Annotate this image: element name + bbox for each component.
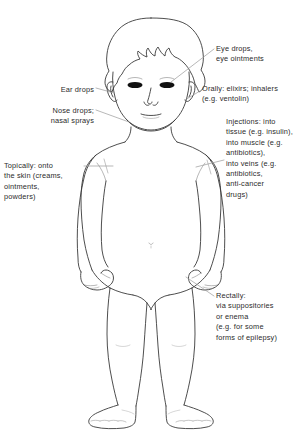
left-eyebrow (128, 78, 142, 80)
mouth (141, 114, 161, 116)
label-ear-drops: Ear drops (30, 85, 94, 95)
child-figure-illustration (0, 0, 302, 434)
left-foot (89, 405, 136, 429)
left-leg-inner (136, 303, 147, 406)
leader-injections (196, 160, 224, 167)
right-toes (176, 420, 211, 422)
right-eye (160, 82, 175, 88)
label-injections: Injections: into tissue (e.g. insulin), … (226, 117, 302, 200)
face-outline (113, 72, 190, 130)
mouth-lower (143, 117, 159, 119)
leader-rectally (186, 277, 214, 296)
right-fingers-1 (205, 285, 218, 286)
right-fingers-2 (203, 287, 214, 288)
label-rectally: Rectally: via suppositories or enema (e.… (216, 291, 302, 343)
right-eyebrow (160, 78, 174, 80)
neck-right (171, 127, 177, 142)
leader-ear-drops (96, 88, 114, 93)
label-topically: Topically: onto the skin (creams, ointme… (4, 161, 82, 203)
right-leg-outer (184, 288, 195, 405)
right-ear-inner (189, 86, 191, 97)
right-leg-inner (155, 303, 166, 406)
right-foot (166, 405, 213, 429)
nose-right-nostril (153, 102, 158, 105)
groin-left (110, 288, 133, 295)
groin-right (169, 288, 192, 295)
right-thumb (192, 273, 201, 278)
left-fingers-2 (88, 287, 99, 288)
left-arm-inner (101, 181, 108, 267)
neck-left (125, 127, 131, 142)
left-leg-outer (107, 288, 118, 405)
left-knee (116, 345, 130, 347)
nose (148, 88, 152, 104)
left-eye (128, 82, 143, 88)
label-nose-drops: Nose drops; nasal sprays (12, 106, 94, 127)
groin-center (133, 295, 169, 310)
right-knee (172, 345, 186, 347)
label-eye-drops: Eye drops, eye ointments (216, 44, 300, 65)
left-thumb (101, 273, 110, 278)
right-arm-inner (194, 181, 201, 267)
diagram-canvas: Eye drops, eye ointments Orally: elixirs… (0, 0, 302, 434)
left-toes (91, 420, 126, 422)
label-orally: Orally: elixirs; inhalers (e.g. ventolin… (202, 84, 302, 105)
left-fingers-1 (84, 285, 97, 286)
right-ankle-crease (168, 410, 180, 414)
navel (149, 243, 153, 245)
left-ankle-crease (122, 410, 134, 414)
hair-outline (105, 18, 205, 92)
leader-injections-tick (207, 160, 211, 174)
